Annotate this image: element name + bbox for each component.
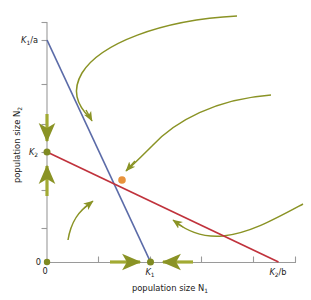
competition-isocline-diagram: K1/a K2 0 0 K1 K2/b population size N1 p…: [0, 0, 311, 300]
x-label-k1: K1: [145, 267, 154, 278]
mid-trajectory-curve: [127, 95, 271, 170]
lower-left-trajectory-arrow: [84, 201, 93, 208]
trajectory-curves: [68, 16, 303, 240]
figure-container: K1/a K2 0 0 K1 K2/b population size N1 p…: [0, 0, 311, 300]
axis-direction-arrows: [47, 114, 193, 262]
species-1-isocline: [47, 40, 151, 262]
y-label-k1-over-a: K1/a: [21, 35, 38, 46]
k2-intercept-point: [44, 149, 51, 156]
x-label-k2-over-b: K2/b: [269, 267, 286, 278]
upper-right-trajectory-arrow: [126, 161, 135, 171]
x-label-zero: 0: [42, 266, 47, 276]
y-label-k2: K2: [29, 147, 38, 158]
unstable-equilibrium-point: [118, 176, 126, 184]
y-label-zero: 0: [36, 257, 41, 267]
lower-right-trajectory-curve: [175, 204, 303, 236]
x-axis-title: population size N1: [132, 283, 208, 294]
lower-right-trajectory-arrow: [173, 220, 183, 227]
origin-point: [44, 259, 50, 265]
lower-left-trajectory-curve: [68, 203, 91, 240]
species-2-isocline: [47, 152, 279, 262]
upper-trajectory-curve: [76, 16, 237, 118]
k1-intercept-point: [147, 259, 154, 266]
y-axis-title: population size N2: [12, 107, 23, 183]
